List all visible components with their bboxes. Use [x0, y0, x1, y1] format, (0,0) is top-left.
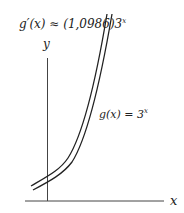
derivative-label: g′(x) ≈ (1,0986)3x — [19, 18, 126, 30]
y-axis-label: y — [43, 38, 50, 50]
x-axis-label: x — [170, 194, 177, 207]
derivative-label-exponent: x — [122, 17, 126, 25]
diagram-canvas — [0, 0, 184, 213]
function-label: g(x) = 3x — [99, 108, 148, 120]
derivative-label-text: g′(x) ≈ (1,0986)3 — [19, 17, 122, 31]
function-label-text: g(x) = 3 — [99, 108, 144, 121]
function-label-exponent: x — [144, 107, 148, 115]
